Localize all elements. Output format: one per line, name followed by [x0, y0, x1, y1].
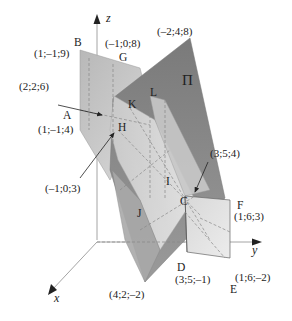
label-E-coords: (1;6;–2) — [235, 271, 271, 284]
label-G-coords: (–1;0;8) — [105, 37, 141, 50]
label-A: A — [63, 109, 72, 121]
label-I: I — [166, 175, 170, 187]
label-D: D — [177, 261, 185, 273]
x-axis-label: x — [53, 291, 60, 305]
label-apex-coords: (–2;4;8) — [157, 25, 193, 38]
x-axis — [52, 242, 97, 290]
label-L: L — [150, 86, 157, 98]
label-K-arrow-coords: (2;2;6) — [19, 80, 49, 93]
z-axis-arrow-icon — [94, 14, 101, 24]
label-B: B — [74, 36, 82, 48]
label-K: K — [128, 98, 137, 110]
z-axis-label: z — [105, 11, 111, 25]
label-B-coords: (1;–1;9) — [34, 47, 70, 60]
label-C: C — [180, 195, 188, 207]
label-G: G — [119, 51, 127, 63]
label-bottom-coords: (4;2;–2) — [109, 288, 145, 301]
label-plane-pi: Π — [182, 72, 193, 88]
label-D-coords: (3;5;–1) — [175, 273, 211, 286]
label-J: J — [137, 207, 142, 219]
plane-box-CDEF — [185, 196, 230, 258]
diagram-canvas: z y x B (1;–1;9) (–1;0;8) G (–2;4;8) Π (… — [0, 0, 292, 321]
label-E: E — [230, 283, 237, 295]
label-C-arrow-coords: (3;5;4) — [210, 147, 240, 160]
label-H: H — [118, 121, 126, 133]
label-A-coords: (1;–1;4) — [38, 123, 74, 136]
label-F-coords: (1;6;3) — [234, 210, 264, 223]
label-H-arrow-coords: (–1;0;3) — [45, 182, 81, 195]
